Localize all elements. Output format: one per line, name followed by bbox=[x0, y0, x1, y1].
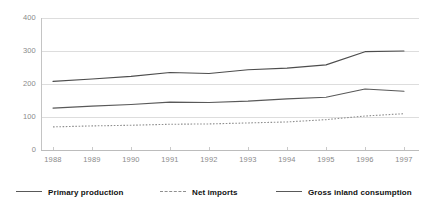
legend-item-primary-production: Primary production bbox=[16, 185, 124, 199]
line-chart: 400 300 200 100 0 1988 1989 1990 1991 19… bbox=[0, 0, 444, 208]
series-lines bbox=[53, 51, 404, 127]
legend-item-gross-inland-consumption: Gross inland consumption bbox=[276, 185, 412, 199]
chart-legend: Primary production Net imports Gross inl… bbox=[0, 183, 444, 205]
series-line-net-imports bbox=[53, 114, 404, 127]
legend-label-net-imports: Net imports bbox=[192, 188, 238, 197]
legend-swatch-solid-icon bbox=[16, 187, 42, 197]
series-line-primary-production bbox=[53, 89, 404, 108]
legend-swatch-dashed-icon bbox=[160, 187, 186, 197]
series-line-gross-inland-consumption bbox=[53, 51, 404, 81]
legend-swatch-solid-icon bbox=[276, 187, 302, 197]
legend-item-net-imports: Net imports bbox=[160, 185, 238, 199]
legend-label-gross-inland-consumption: Gross inland consumption bbox=[308, 188, 412, 197]
plot-area bbox=[0, 0, 444, 208]
legend-label-primary-production: Primary production bbox=[48, 188, 124, 197]
